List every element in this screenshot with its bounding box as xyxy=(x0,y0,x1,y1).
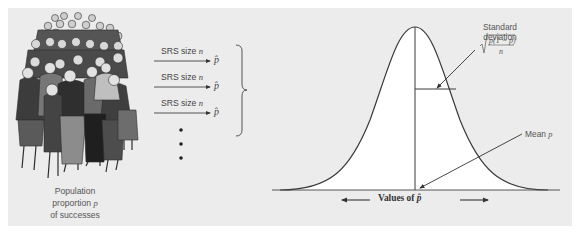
right-brace xyxy=(236,45,247,136)
sample-result-1: p̂ xyxy=(214,54,219,65)
sample-result-3: p̂ xyxy=(214,106,219,117)
continuation-dots xyxy=(179,128,183,160)
sample-label-2: SRS size n xyxy=(161,72,203,82)
formula-denominator: n xyxy=(499,47,503,56)
sample-label-3: SRS size n xyxy=(161,98,203,108)
sample-label-1: SRS size n xyxy=(161,46,203,56)
curve-fill xyxy=(280,27,548,190)
x-axis-label: Values of p̂ xyxy=(378,193,421,203)
formula-numerator: p(1 − p) xyxy=(489,36,516,45)
sample-result-2: p̂ xyxy=(214,80,219,91)
mean-label: Mean p xyxy=(525,129,552,139)
mean-symbol: p xyxy=(548,130,552,139)
x-axis-symbol: p̂ xyxy=(417,193,422,203)
